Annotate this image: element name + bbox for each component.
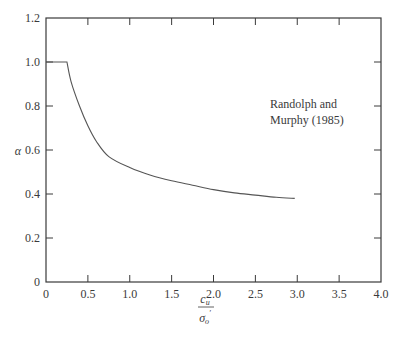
y-tick-label: 1.0 <box>25 55 40 69</box>
x-label-denominator-sub: o <box>205 317 209 326</box>
x-tick-label: 0.5 <box>80 287 95 301</box>
annotation-line2: Murphy (1985) <box>270 113 344 127</box>
y-axis-tick-labels: 00.20.40.60.81.01.2 <box>25 11 40 289</box>
svg-text:σo′: σo′ <box>199 309 211 326</box>
x-tick-label: 1.0 <box>122 287 137 301</box>
y-tick-label: 1.2 <box>25 11 40 25</box>
x-tick-label: 4.0 <box>374 287 389 301</box>
plot-frame <box>46 18 381 282</box>
annotation-randolph-murphy: Randolph and Murphy (1985) <box>270 97 344 127</box>
y-tick-label: 0.8 <box>25 99 40 113</box>
y-axis-ticks <box>46 62 381 238</box>
y-tick-label: 0.4 <box>25 187 40 201</box>
x-tick-label: 2.5 <box>248 287 263 301</box>
y-axis-label: α <box>15 144 22 158</box>
y-tick-label: 0 <box>34 275 40 289</box>
x-tick-label: 3.5 <box>332 287 347 301</box>
x-label-prime: ′ <box>209 309 211 318</box>
x-tick-label: 1.5 <box>164 287 179 301</box>
x-label-numerator-sub: u <box>206 298 210 307</box>
y-tick-label: 0.6 <box>25 143 40 157</box>
alpha-curve <box>46 62 295 198</box>
annotation-line1: Randolph and <box>270 97 337 111</box>
x-tick-label: 0 <box>43 287 49 301</box>
x-tick-label: 3.0 <box>290 287 305 301</box>
x-axis-ticks <box>88 18 339 282</box>
chart: 00.51.01.52.02.53.03.54.0 00.20.40.60.81… <box>0 0 401 344</box>
y-tick-label: 0.2 <box>25 231 40 245</box>
x-axis-tick-labels: 00.51.01.52.02.53.03.54.0 <box>43 287 389 301</box>
